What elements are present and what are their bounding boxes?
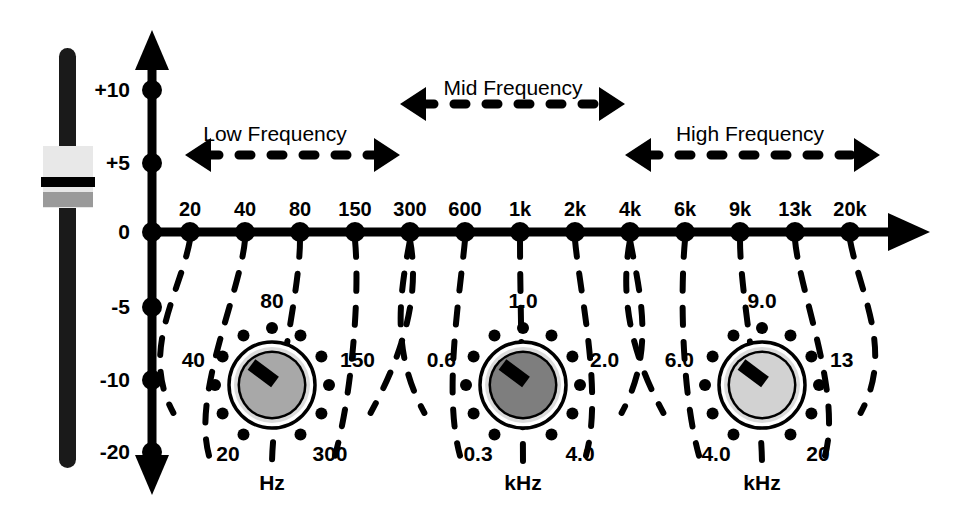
low-knob-unit-label: Hz <box>259 472 285 493</box>
knob-detent-dot <box>813 379 825 391</box>
response-curve <box>795 240 829 456</box>
x-axis-tick-label-0: 20 <box>179 199 201 219</box>
knob-detent-dot <box>217 351 229 363</box>
y-axis-tick-label-3: -5 <box>111 296 130 317</box>
high-knob-scale-label-2: 13 <box>830 349 853 370</box>
mid-frequency-band-label: Mid Frequency <box>444 77 583 98</box>
low-knob-scale-label-2: 150 <box>340 349 375 370</box>
knob-detent-dot <box>566 408 578 420</box>
knob-detent-dot <box>707 408 719 420</box>
x-axis-tick-label-6: 1k <box>509 199 531 219</box>
fader-cap-band <box>43 192 93 207</box>
y-axis-arrow-up-icon <box>135 30 169 70</box>
mid-knob-scale-label-2: 2.0 <box>590 349 619 370</box>
response-curve <box>371 240 413 413</box>
knob-detent-dot <box>574 379 586 391</box>
x-axis-tick-label-9: 6k <box>674 199 696 219</box>
x-axis-tick-label-5: 600 <box>448 199 481 219</box>
knob-detent-dot <box>315 408 327 420</box>
low-knob-scale-label-0: 40 <box>182 349 205 370</box>
low-knob-scale-label-3: 20 <box>216 443 239 464</box>
x-axis-tick-label-3: 150 <box>338 199 371 219</box>
y-axis-tick-dot <box>142 297 162 317</box>
knob-detent-dot <box>805 351 817 363</box>
knob-detent-dot <box>295 330 307 342</box>
mid-knob-unit-label: kHz <box>504 472 541 493</box>
high-knob-unit-label: kHz <box>743 472 780 493</box>
y-axis-tick-dot <box>142 442 162 462</box>
knob-detent-dot <box>266 322 278 334</box>
knob-detent-dot <box>566 351 578 363</box>
knob-detent-dot <box>546 330 558 342</box>
mid-knob-scale-label-1: 1.0 <box>508 290 537 311</box>
level-fader[interactable] <box>41 48 95 468</box>
y-axis-tick-label-2: 0 <box>118 221 130 242</box>
x-axis-tick-label-11: 13k <box>778 199 811 219</box>
y-axis <box>135 30 169 495</box>
x-axis-tick-label-7: 2k <box>564 199 586 219</box>
mid-knob-scale-label-0: 0.6 <box>427 349 456 370</box>
equalizer-diagram: +10+50-5-10-202040801503006001k2k4k6k9k1… <box>0 0 958 524</box>
x-axis-tick-label-2: 80 <box>289 199 311 219</box>
high-frequency-knob[interactable] <box>699 322 825 440</box>
y-axis-tick-dot <box>142 153 162 173</box>
low-frequency-band-label: Low Frequency <box>203 123 347 144</box>
y-axis-tick-label-0: +10 <box>94 79 130 100</box>
knob-detent-dot <box>699 379 711 391</box>
y-axis-tick-label-4: -10 <box>100 369 130 390</box>
y-axis-tick-label-1: +5 <box>106 152 130 173</box>
knob-detent-dot <box>517 322 529 334</box>
arrow-head-right-icon <box>854 138 880 172</box>
response-curve <box>205 240 245 456</box>
fader-track[interactable] <box>59 48 76 468</box>
knob-detent-dot <box>315 351 327 363</box>
knob-detent-dot <box>468 408 480 420</box>
knob-detent-dot <box>805 408 817 420</box>
response-curve <box>401 240 425 413</box>
y-axis-tick-dot <box>142 80 162 100</box>
knob-detent-dot <box>756 322 768 334</box>
knob-detent-dot <box>468 351 480 363</box>
x-axis <box>152 213 930 251</box>
x-axis-tick-label-8: 4k <box>619 199 641 219</box>
fader-indicator-line <box>41 177 95 187</box>
arrow-head-right-icon <box>599 87 625 121</box>
knob-detent-dot <box>460 379 472 391</box>
high-frequency-band-label: High Frequency <box>676 123 824 144</box>
knob-detent-dot <box>489 330 501 342</box>
x-axis-tick-label-4: 300 <box>393 199 426 219</box>
knob-detent-dot <box>728 428 740 440</box>
knob-detent-dot <box>217 408 229 420</box>
knob-detent-dot <box>323 379 335 391</box>
knob-detent-dot <box>489 428 501 440</box>
x-axis-tick-label-10: 9k <box>729 199 751 219</box>
low-knob-scale-label-4: 300 <box>312 443 347 464</box>
y-axis-tick-label-5: -20 <box>100 441 130 462</box>
x-axis-arrow-right-icon <box>888 213 930 251</box>
knob-detent-dot <box>238 330 250 342</box>
high-knob-scale-label-4: 20 <box>806 443 829 464</box>
mid-knob-scale-label-4: 4.0 <box>565 443 594 464</box>
knob-detent-dot <box>707 351 719 363</box>
knob-detent-dot <box>295 428 307 440</box>
knob-detent-dot <box>785 428 797 440</box>
high-knob-scale-label-0: 6.0 <box>665 349 694 370</box>
knob-detent-dot <box>546 428 558 440</box>
x-axis-tick-label-12: 20k <box>833 199 866 219</box>
low-knob-scale-label-1: 80 <box>260 290 283 311</box>
mid-knob-scale-label-3: 0.3 <box>463 443 492 464</box>
high-knob-scale-label-3: 4.0 <box>701 443 730 464</box>
high-knob-scale-label-1: 9.0 <box>747 290 776 311</box>
knob-detent-dot <box>238 428 250 440</box>
knob-detent-dot <box>728 330 740 342</box>
low-frequency-knob[interactable] <box>209 322 335 440</box>
x-axis-tick-label-1: 40 <box>234 199 256 219</box>
response-curve <box>850 240 875 413</box>
response-curve <box>160 240 190 413</box>
knob-detent-dot <box>209 379 221 391</box>
knob-detent-dot <box>785 330 797 342</box>
